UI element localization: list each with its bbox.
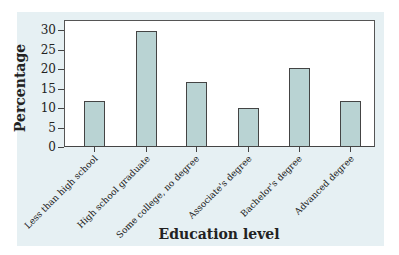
- y-tick: [58, 30, 64, 31]
- y-tick-label: 30: [26, 24, 56, 36]
- y-tick: [58, 108, 64, 109]
- bar: [84, 101, 105, 147]
- y-tick-label: 0: [26, 141, 56, 153]
- bar: [289, 68, 310, 147]
- x-tick: [94, 147, 95, 152]
- y-tick-label: 15: [26, 83, 56, 95]
- x-tick: [248, 147, 249, 152]
- x-tick: [350, 147, 351, 152]
- y-tick-label: 5: [26, 122, 56, 134]
- y-tick-label: 20: [26, 63, 56, 75]
- x-tick: [299, 147, 300, 152]
- bar: [340, 101, 361, 147]
- bar: [186, 82, 207, 147]
- x-tick: [196, 147, 197, 152]
- plot-area: [64, 20, 375, 147]
- bar: [136, 31, 157, 147]
- y-tick: [58, 69, 64, 70]
- y-tick: [58, 89, 64, 90]
- x-axis-title: Education level: [159, 226, 280, 242]
- y-tick: [58, 128, 64, 129]
- bar: [238, 108, 259, 147]
- y-tick-label: 10: [26, 102, 56, 114]
- y-tick-label: 25: [26, 44, 56, 56]
- x-tick: [146, 147, 147, 152]
- y-tick: [58, 147, 64, 148]
- y-tick: [58, 50, 64, 51]
